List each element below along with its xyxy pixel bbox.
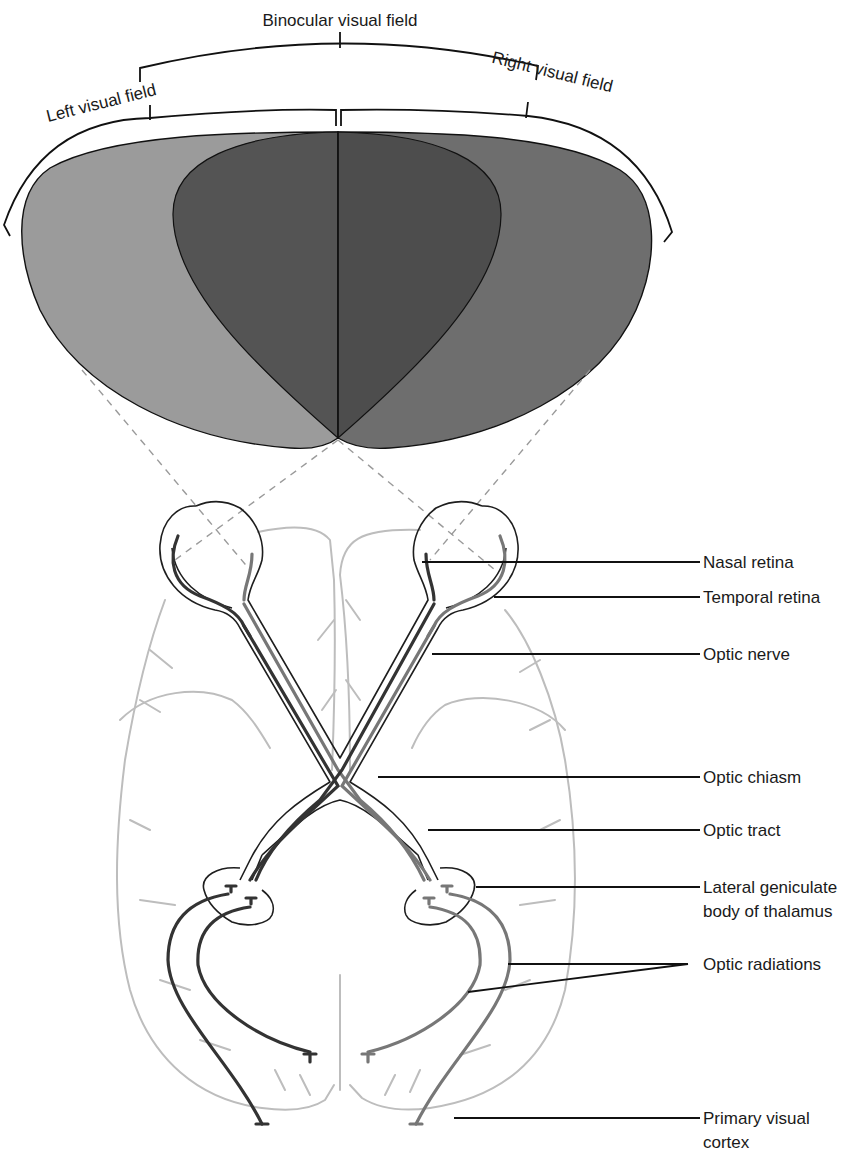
right-field-label: Right visual field: [490, 48, 615, 96]
label-primary-visual-cortex-2: cortex: [703, 1133, 750, 1152]
label-lateral-geniculate-2: body of thalamus: [703, 902, 832, 921]
label-temporal-retina: Temporal retina: [703, 588, 821, 607]
eyes-and-optic-pathway: [160, 502, 518, 925]
brain-outline: [117, 527, 575, 1109]
label-primary-visual-cortex-1: Primary visual: [703, 1109, 810, 1128]
label-optic-nerve: Optic nerve: [703, 645, 790, 664]
label-lateral-geniculate-1: Lateral geniculate: [703, 878, 837, 897]
label-nasal-retina: Nasal retina: [703, 553, 794, 572]
visual-field-map: [22, 132, 652, 448]
binocular-field-label: Binocular visual field: [263, 11, 418, 30]
callout-leaders: [378, 562, 700, 1118]
label-optic-tract: Optic tract: [703, 821, 781, 840]
label-optic-radiations: Optic radiations: [703, 955, 821, 974]
visual-pathway-diagram: Binocular visual field Left visual field…: [0, 0, 866, 1162]
label-optic-chiasm: Optic chiasm: [703, 768, 801, 787]
callout-labels: Nasal retina Temporal retina Optic nerve…: [703, 553, 837, 1152]
